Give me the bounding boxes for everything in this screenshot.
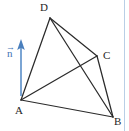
edge-C-B bbox=[97, 56, 113, 117]
edge-D-B bbox=[50, 18, 113, 117]
vertex-label-D: D bbox=[40, 2, 48, 13]
vertex-label-A: A bbox=[15, 105, 23, 116]
vector-label-glyph: → n bbox=[7, 48, 13, 59]
vertex-label-C: C bbox=[103, 50, 110, 61]
edge-D-A bbox=[21, 18, 50, 100]
edge-A-B bbox=[21, 100, 113, 117]
vector-overarrow-icon: → bbox=[6, 43, 15, 52]
vector-label-n: → n bbox=[7, 48, 13, 59]
geometry-figure: D C A B → n bbox=[0, 0, 129, 131]
edge-A-C bbox=[21, 56, 97, 100]
tetrahedron-edges bbox=[21, 18, 113, 117]
edge-D-C bbox=[50, 18, 97, 56]
normal-vector-arrow bbox=[17, 39, 25, 96]
vertex-label-B: B bbox=[114, 116, 121, 127]
